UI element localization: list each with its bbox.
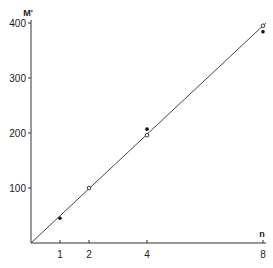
y-tick-label: 400	[9, 18, 26, 29]
chart: 100200300400 1248 M' n	[0, 0, 273, 268]
fit-line	[31, 23, 266, 243]
data-point-filled	[58, 216, 62, 220]
y-tick-label: 200	[9, 128, 26, 139]
data-point-filled	[145, 127, 149, 131]
x-tick-label: 8	[260, 249, 266, 260]
x-tick-label: 4	[144, 249, 150, 260]
data-point-open	[87, 186, 91, 190]
y-ticks: 100200300400	[9, 18, 31, 194]
data-point-open	[261, 24, 265, 28]
x-axis-title: n	[259, 229, 265, 239]
plot-area	[31, 23, 266, 243]
data-point-filled	[261, 30, 265, 34]
x-tick-label: 2	[86, 249, 92, 260]
y-tick-label: 100	[9, 183, 26, 194]
y-axis-title: M'	[23, 8, 33, 18]
x-tick-label: 1	[57, 249, 63, 260]
data-point-open	[145, 133, 149, 137]
y-tick-label: 300	[9, 73, 26, 84]
